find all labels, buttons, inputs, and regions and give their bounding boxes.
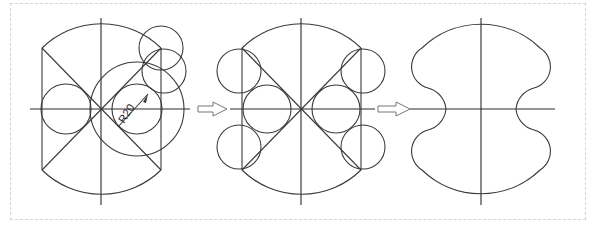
step-arrow-2 bbox=[378, 102, 410, 116]
figure-step-2 bbox=[217, 18, 385, 205]
lower-right-circle bbox=[341, 125, 385, 169]
lower-left-circle bbox=[217, 125, 261, 169]
drawing-canvas: R20 bbox=[0, 0, 594, 225]
step-arrow-1 bbox=[198, 102, 227, 116]
upper-right-circle bbox=[341, 49, 385, 93]
figure-step-3 bbox=[410, 18, 555, 205]
upper-left-circle bbox=[217, 49, 261, 93]
dimension-label: R20 bbox=[116, 102, 137, 125]
figure-step-1: R20 bbox=[30, 18, 190, 205]
